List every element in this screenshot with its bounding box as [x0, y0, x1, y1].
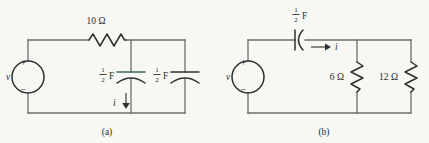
voltage-source-a[interactable]: + − v — [6, 57, 44, 95]
capacitor-a2-numerator: 1 — [155, 66, 159, 74]
resistor-12-ohm[interactable]: 12 Ω — [379, 62, 417, 92]
source-minus-sign-a: − — [21, 84, 27, 95]
source-label-b: v — [226, 72, 231, 82]
circuit-b: + − v 1 2 F i 6 Ω 12 Ω ( — [226, 6, 417, 138]
capacitor-b-unit: F — [302, 11, 307, 21]
current-arrow-b-head — [325, 44, 331, 51]
capacitor-b-denominator: 2 — [294, 16, 298, 24]
resistor-10-ohm-zigzag — [89, 34, 126, 46]
circuit-figure: + − v 10 Ω 1 2 F 1 2 F — [0, 0, 429, 143]
caption-b: (b) — [318, 127, 329, 138]
resistor-6-ohm-label: 6 Ω — [330, 72, 344, 82]
source-plus-sign-a: + — [21, 57, 27, 68]
voltage-source-circle-b — [232, 61, 264, 93]
capacitor-a1-unit: F — [109, 71, 114, 81]
resistor-10-ohm-label: 10 Ω — [87, 16, 106, 26]
current-arrow-b: i — [311, 42, 338, 52]
current-arrow-a: i — [113, 93, 130, 109]
resistor-12-ohm-zigzag — [405, 62, 417, 92]
capacitor-a2-unit: F — [163, 71, 168, 81]
capacitor-a2[interactable]: 1 2 F — [154, 66, 200, 84]
current-label-a: i — [113, 98, 116, 108]
capacitor-a1-denominator: 2 — [101, 76, 105, 84]
voltage-source-b[interactable]: + − v — [226, 57, 264, 95]
source-minus-sign-b: − — [241, 84, 247, 95]
circuit-a-wires — [28, 40, 185, 113]
capacitor-a2-denominator: 2 — [155, 76, 159, 84]
resistor-12-ohm-label: 12 Ω — [379, 72, 398, 82]
source-plus-sign-b: + — [241, 57, 247, 68]
capacitor-b-plate-curved — [299, 30, 304, 50]
voltage-source-circle-a — [12, 61, 44, 93]
caption-a: (a) — [102, 127, 113, 138]
capacitor-a1-numerator: 1 — [101, 66, 105, 74]
resistor-10-ohm[interactable]: 10 Ω — [87, 16, 126, 46]
resistor-6-ohm[interactable]: 6 Ω — [330, 62, 363, 92]
circuit-a: + − v 10 Ω 1 2 F 1 2 F — [6, 16, 199, 138]
resistor-6-ohm-zigzag — [351, 62, 363, 92]
capacitor-a1[interactable]: 1 2 F — [100, 66, 146, 84]
capacitor-b[interactable]: 1 2 F — [293, 6, 308, 50]
current-arrow-a-head — [122, 103, 130, 109]
capacitor-b-numerator: 1 — [294, 6, 298, 14]
current-label-b: i — [335, 42, 338, 52]
source-label-a: v — [6, 72, 11, 82]
